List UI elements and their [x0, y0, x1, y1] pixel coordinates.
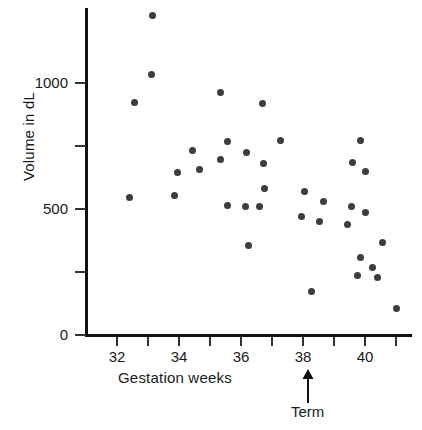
scatter-plot: Volume in dL Gestation weeks 05001000 32… [0, 0, 422, 430]
data-point [374, 274, 381, 281]
data-point [126, 194, 133, 201]
x-axis-tick [116, 337, 118, 346]
data-point [357, 254, 364, 261]
data-point [131, 99, 138, 106]
y-axis-tick-label: 0 [10, 326, 68, 343]
x-axis-tick [364, 337, 366, 346]
x-axis-tick [333, 337, 335, 346]
data-point [349, 159, 356, 166]
y-axis-tick-label: 500 [10, 200, 68, 217]
data-point [256, 203, 263, 210]
data-point [224, 138, 231, 145]
x-axis-tick [209, 337, 211, 346]
data-point [171, 192, 178, 199]
x-axis-tick [271, 337, 273, 346]
data-point [354, 272, 361, 279]
data-point [243, 149, 250, 156]
data-point [174, 169, 181, 176]
y-axis-tick [75, 271, 86, 273]
x-axis-tick [147, 337, 149, 346]
data-point [260, 160, 267, 167]
data-point [242, 203, 249, 210]
data-point [362, 209, 369, 216]
x-axis-line [85, 334, 412, 337]
data-point [320, 198, 327, 205]
data-point [308, 288, 315, 295]
data-point [217, 156, 224, 163]
data-point [379, 239, 386, 246]
term-label: Term [278, 403, 338, 420]
x-axis-tick-label: 32 [97, 348, 137, 365]
data-point [301, 188, 308, 195]
x-axis-tick [178, 337, 180, 346]
x-axis-tick-label: 40 [345, 348, 385, 365]
y-axis-tick [75, 208, 86, 210]
data-point [149, 12, 156, 19]
y-axis-tick [75, 145, 86, 147]
data-point [217, 89, 224, 96]
x-axis-tick-label: 34 [159, 348, 199, 365]
y-axis-line [85, 8, 88, 337]
data-point [196, 166, 203, 173]
data-point [393, 305, 400, 312]
data-point [261, 185, 268, 192]
data-point [357, 137, 364, 144]
data-point [316, 218, 323, 225]
data-point [362, 168, 369, 175]
y-axis-tick [75, 82, 86, 84]
x-axis-tick-label: 38 [283, 348, 323, 365]
data-point [148, 71, 155, 78]
data-point [298, 213, 305, 220]
y-axis-tick-label: 1000 [10, 74, 68, 91]
data-point [259, 100, 266, 107]
term-arrow-icon [301, 369, 315, 403]
data-point [189, 147, 196, 154]
data-point [277, 137, 284, 144]
x-axis-tick [240, 337, 242, 346]
x-axis-tick [302, 337, 304, 346]
x-axis-tick-label: 36 [221, 348, 261, 365]
x-axis-tick [395, 337, 397, 346]
data-point [245, 242, 252, 249]
data-point [348, 203, 355, 210]
data-point [224, 202, 231, 209]
y-axis-tick [75, 334, 86, 336]
data-point [344, 221, 351, 228]
x-axis-title: Gestation weeks [118, 369, 232, 386]
data-point [369, 264, 376, 271]
